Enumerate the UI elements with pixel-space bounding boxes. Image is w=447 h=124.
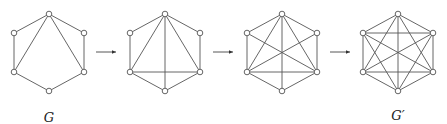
graph-G (11, 11, 87, 94)
vertex-ul (127, 30, 133, 36)
vertex-ul (360, 30, 366, 36)
edge (398, 33, 433, 91)
graph-label-g-prime: G′ (391, 108, 404, 123)
edge (49, 14, 84, 72)
edge (130, 72, 165, 91)
diagram-canvas (0, 0, 447, 124)
graph-step2 (244, 11, 320, 94)
vertex-lr (430, 69, 436, 75)
vertex-ll (127, 69, 133, 75)
vertex-top (395, 11, 401, 17)
vertex-bottom (162, 88, 168, 94)
vertex-top (46, 11, 52, 17)
edge (130, 14, 165, 72)
vertex-ur (81, 30, 87, 36)
edge (247, 72, 282, 91)
vertex-ll (360, 69, 366, 75)
graph-step1 (127, 11, 203, 94)
vertex-top (279, 11, 285, 17)
graph-transformation-diagram: G G′ (0, 0, 447, 124)
vertex-bottom (46, 88, 52, 94)
vertex-lr (197, 69, 203, 75)
vertex-ul (244, 30, 250, 36)
edge (165, 72, 200, 91)
edge (49, 72, 84, 91)
vertex-ur (430, 30, 436, 36)
edge (14, 72, 49, 91)
vertex-bottom (395, 88, 401, 94)
edge (363, 33, 398, 91)
edge (282, 72, 317, 91)
edge (14, 14, 49, 72)
vertex-lr (81, 69, 87, 75)
vertex-ur (314, 30, 320, 36)
graph-label-g: G (44, 110, 54, 124)
vertex-ll (244, 69, 250, 75)
vertex-top (162, 11, 168, 17)
vertex-ul (11, 30, 17, 36)
vertex-ll (11, 69, 17, 75)
vertex-bottom (279, 88, 285, 94)
graph-G_prime (360, 11, 436, 94)
vertex-lr (314, 69, 320, 75)
edge (165, 14, 200, 72)
vertex-ur (197, 30, 203, 36)
